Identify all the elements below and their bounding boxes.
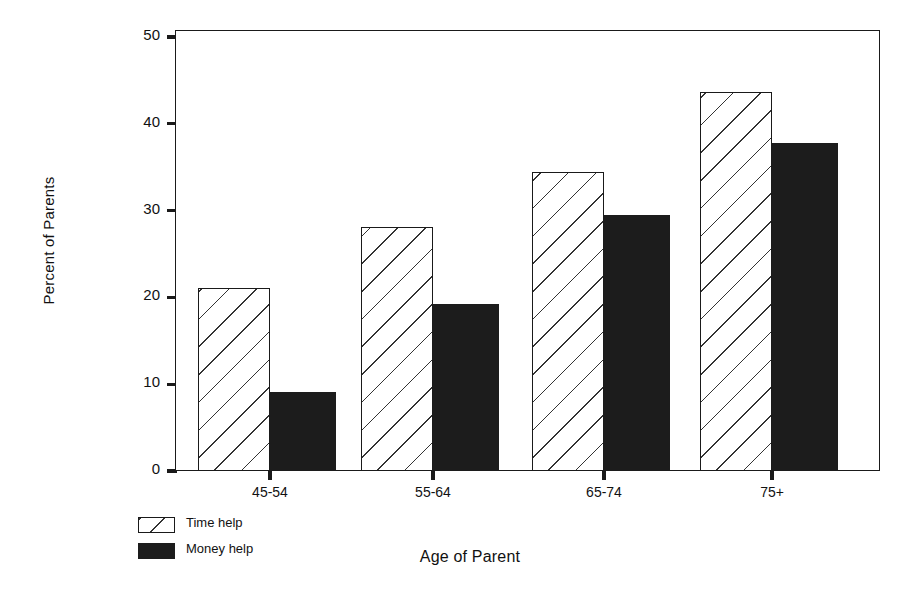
y-tick-label: 10 [110,373,160,390]
x-tick-mark [770,470,773,480]
y-axis-title: Percent of Parents [40,131,57,351]
bar-money-help-45-54 [270,392,336,471]
y-tick-label: 0 [110,460,160,477]
bar-time-help-45-54 [198,288,270,471]
legend-label-money-help: Money help [186,541,253,556]
bar-money-help-65-74 [604,215,670,471]
x-tick-label: 75+ [712,484,832,500]
legend-swatch-money-help-icon [138,543,175,559]
bar-chart-figure: Percent of Parents 0 10 20 30 40 50 45-5… [0,0,902,602]
y-tick-label: 50 [110,26,160,43]
x-tick-label: 55-64 [373,484,493,500]
bar-money-help-75-plus [772,143,838,471]
legend-swatch-time-help-icon [138,517,175,533]
bar-time-help-75-plus [700,92,772,471]
y-tick-label: 40 [110,113,160,130]
bar-money-help-55-64 [433,304,499,471]
x-tick-label: 45-54 [210,484,330,500]
x-axis-title: Age of Parent [330,548,610,566]
bar-time-help-65-74 [532,172,604,471]
y-tick-label: 30 [110,200,160,217]
y-tick-label: 20 [110,286,160,303]
x-tick-label: 65-74 [544,484,664,500]
x-tick-mark [268,470,271,480]
x-tick-mark [431,470,434,480]
x-tick-mark [602,470,605,480]
legend-label-time-help: Time help [186,515,243,530]
bar-time-help-55-64 [361,227,433,471]
